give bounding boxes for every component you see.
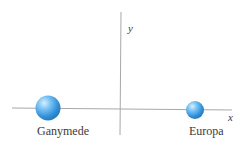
x-axis-label: x — [228, 111, 233, 123]
europa-sphere — [186, 101, 204, 119]
ganymede-sphere — [36, 96, 61, 121]
ganymede-label: Ganymede — [37, 124, 89, 139]
y-axis-label: y — [128, 22, 133, 34]
europa-label: Europa — [189, 124, 224, 139]
y-axis — [120, 12, 121, 135]
